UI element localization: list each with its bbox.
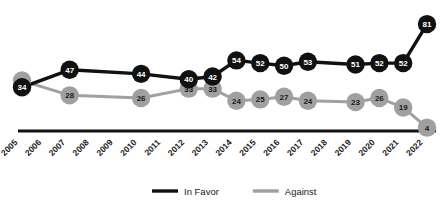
data-point-marker: 19: [394, 98, 412, 116]
series-layer: [22, 24, 427, 128]
data-point-marker: 53: [299, 53, 317, 71]
x-tick-label-2005: 2005: [0, 137, 20, 158]
x-tick-label-2009: 2009: [94, 137, 115, 158]
marker-value-label: 4: [425, 124, 430, 133]
x-tick-label-2020: 2020: [356, 137, 377, 158]
data-point-marker: 23: [346, 93, 364, 111]
marker-value-label: 26: [137, 94, 146, 103]
x-tick-label-2008: 2008: [70, 137, 91, 158]
data-point-marker: 24: [299, 92, 317, 110]
marker-value-label: 23: [351, 98, 360, 107]
data-point-marker: 40: [180, 70, 198, 88]
marker-value-label: 28: [65, 91, 74, 100]
marker-value-label: 40: [184, 75, 193, 84]
data-point-marker: 51: [346, 55, 364, 73]
x-tick-label-2016: 2016: [261, 137, 282, 158]
data-point-marker: 81: [418, 15, 436, 33]
x-tick-labels: 2005200620072008200920102011201220132014…: [0, 137, 425, 158]
marker-value-label: 19: [399, 103, 408, 112]
legend-label-in-favor: In Favor: [184, 186, 219, 197]
data-point-marker: 44: [132, 65, 150, 83]
chart-legend: In FavorAgainst: [152, 186, 317, 197]
data-point-marker: 27: [275, 88, 293, 106]
chart-plot-area: 2005200620072008200920102011201220132014…: [0, 0, 445, 205]
data-point-marker: 52: [251, 54, 269, 72]
x-tick-label-2013: 2013: [190, 137, 211, 158]
x-tick-label-2006: 2006: [23, 137, 44, 158]
marker-value-label: 26: [375, 94, 384, 103]
marker-value-label: 24: [303, 97, 312, 106]
line-chart: 2005200620072008200920102011201220132014…: [0, 0, 445, 205]
x-tick-label-2012: 2012: [166, 137, 187, 158]
x-tick-label-2014: 2014: [213, 137, 234, 158]
data-point-marker: 52: [370, 54, 388, 72]
data-point-marker: 34: [13, 78, 31, 96]
data-point-marker: 26: [132, 89, 150, 107]
data-point-marker: 25: [251, 90, 269, 108]
x-tick-label-2017: 2017: [285, 137, 306, 158]
x-tick-label-2010: 2010: [118, 137, 139, 158]
marker-value-label: 51: [351, 60, 360, 69]
marker-value-label: 34: [18, 83, 27, 92]
legend-label-against: Against: [285, 186, 317, 197]
marker-value-label: 42: [208, 73, 217, 82]
marker-value-label: 50: [280, 62, 289, 71]
data-point-marker: 52: [394, 54, 412, 72]
marker-value-label: 27: [280, 93, 289, 102]
data-point-markers: 3928263333242527242326194344744404254525…: [13, 15, 436, 137]
marker-value-label: 47: [65, 66, 74, 75]
marker-value-label: 53: [303, 58, 312, 67]
x-tick-label-2022: 2022: [404, 137, 425, 158]
series-line-against: [22, 81, 427, 128]
marker-value-label: 52: [399, 59, 408, 68]
marker-value-label: 24: [232, 97, 241, 106]
data-point-marker: 50: [275, 57, 293, 75]
marker-value-label: 52: [375, 59, 384, 68]
marker-value-label: 33: [208, 85, 217, 94]
marker-value-label: 25: [256, 95, 265, 104]
data-point-marker: 28: [60, 86, 78, 104]
marker-value-label: 54: [232, 56, 241, 65]
x-tick-label-2018: 2018: [309, 137, 330, 158]
data-point-marker: 4: [418, 118, 436, 136]
data-point-marker: 42: [203, 67, 221, 85]
marker-value-label: 52: [256, 59, 265, 68]
series-line-in-favor: [22, 24, 427, 87]
x-tick-label-2015: 2015: [237, 137, 258, 158]
marker-value-label: 81: [423, 20, 432, 29]
marker-value-label: 44: [137, 70, 146, 79]
data-point-marker: 47: [60, 61, 78, 79]
data-point-marker: 54: [227, 51, 245, 69]
x-tick-label-2007: 2007: [47, 137, 68, 158]
x-tick-label-2011: 2011: [142, 137, 162, 157]
x-tick-label-2019: 2019: [332, 137, 353, 158]
x-tick-label-2021: 2021: [380, 137, 401, 158]
data-point-marker: 24: [227, 92, 245, 110]
data-point-marker: 26: [370, 89, 388, 107]
